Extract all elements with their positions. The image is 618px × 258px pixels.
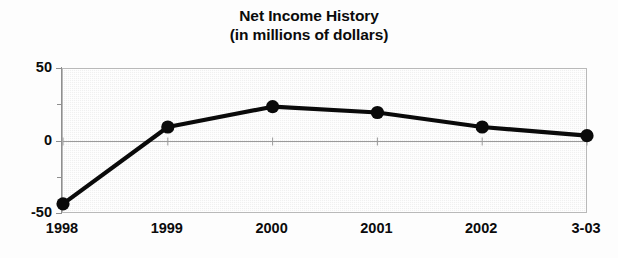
data-point-marker: [476, 120, 489, 133]
x-axis-label: 3-03: [571, 220, 600, 236]
chart-subtitle: (in millions of dollars): [0, 25, 618, 44]
data-point-marker: [56, 197, 69, 210]
y-axis-minor-tick: [57, 104, 62, 105]
chart-page: Net Income History (in millions of dolla…: [0, 0, 618, 258]
page-title: Net Income History: [0, 6, 618, 25]
data-point-markers: [56, 100, 593, 210]
y-axis-tick: [56, 141, 62, 142]
data-point-marker: [580, 129, 593, 142]
net-income-line: [63, 107, 587, 204]
line-chart-svg: [63, 69, 588, 214]
data-point-marker: [266, 100, 279, 113]
plot-area: [62, 68, 587, 213]
y-axis-label: 50: [0, 59, 52, 75]
y-axis-tick: [56, 213, 62, 214]
data-point-marker: [371, 106, 384, 119]
data-point-marker: [161, 120, 174, 133]
y-axis-label: -50: [0, 204, 52, 220]
x-axis-label: 1999: [151, 220, 183, 236]
chart-title-block: Net Income History (in millions of dolla…: [0, 6, 618, 45]
y-axis-tick: [56, 68, 62, 69]
y-axis-minor-tick: [57, 177, 62, 178]
x-axis-label: 2000: [255, 220, 287, 236]
y-axis-label: 0: [0, 132, 52, 148]
x-axis-label: 2001: [360, 220, 392, 236]
x-axis-label: 2002: [465, 220, 497, 236]
x-axis-label: 1998: [46, 220, 78, 236]
